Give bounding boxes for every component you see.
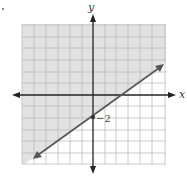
x-axis-right-arrow-icon — [168, 92, 176, 98]
x-axis-left-arrow-icon — [12, 92, 20, 98]
inequality-graph: x y −2 — [0, 0, 187, 184]
bullet-marker — [2, 8, 4, 10]
y-axis-up-arrow-icon — [90, 14, 96, 22]
y-intercept-point — [91, 115, 95, 119]
y-axis-down-arrow-icon — [90, 166, 96, 174]
y-intercept-label: −2 — [96, 113, 111, 124]
x-axis-label: x — [179, 88, 186, 101]
y-axis-label: y — [87, 1, 95, 14]
